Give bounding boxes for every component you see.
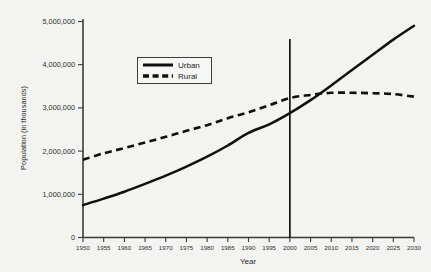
x-tick-label: 1985 bbox=[221, 244, 235, 251]
legend-label-urban: Urban bbox=[178, 61, 200, 70]
x-axis-title: Year bbox=[240, 257, 257, 266]
y-tick-label: 1,000,000 bbox=[43, 190, 75, 199]
x-tick-label: 1980 bbox=[200, 244, 214, 251]
x-tick-label: 2030 bbox=[407, 244, 421, 251]
x-tick-label: 2025 bbox=[386, 244, 400, 251]
x-tick-label: 2010 bbox=[324, 244, 338, 251]
x-tick-label: 1950 bbox=[76, 244, 90, 251]
x-tick-label: 1970 bbox=[159, 244, 173, 251]
y-axis-title: Population (in thousands) bbox=[19, 86, 28, 170]
x-tick-label: 1965 bbox=[138, 244, 152, 251]
x-tick-label: 1955 bbox=[97, 244, 111, 251]
chart-canvas: 0 1,000,000 2,000,000 3,000,000 4,000,00… bbox=[0, 0, 431, 272]
y-tick-label: 2,000,000 bbox=[43, 147, 75, 156]
chart-legend: Urban Rural bbox=[138, 58, 212, 84]
y-tick-label: 3,000,000 bbox=[43, 103, 75, 112]
chart-background bbox=[0, 0, 431, 272]
legend-box bbox=[138, 58, 212, 84]
population-line-chart: 0 1,000,000 2,000,000 3,000,000 4,000,00… bbox=[0, 0, 431, 272]
x-tick-label: 1990 bbox=[242, 244, 256, 251]
x-tick-label: 1975 bbox=[180, 244, 194, 251]
legend-label-rural: Rural bbox=[178, 72, 197, 81]
x-tick-label: 2020 bbox=[366, 244, 380, 251]
y-tick-label: 5,000,000 bbox=[43, 17, 75, 26]
x-tick-label: 2000 bbox=[283, 244, 297, 251]
x-tick-label: 2005 bbox=[304, 244, 318, 251]
x-tick-label: 1995 bbox=[262, 244, 276, 251]
x-tick-label: 2015 bbox=[345, 244, 359, 251]
x-tick-label: 1960 bbox=[117, 244, 131, 251]
x-axis-tick-labels: 1950195519601965197019751980198519901995… bbox=[76, 244, 421, 251]
y-tick-label: 4,000,000 bbox=[43, 60, 75, 69]
y-tick-label: 0 bbox=[71, 233, 75, 242]
